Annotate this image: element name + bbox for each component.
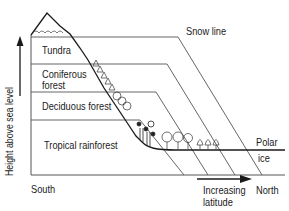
- zone-label-coniferous-line2: forest: [42, 80, 65, 91]
- y-axis-label: Height above sea level: [4, 87, 15, 176]
- latitude-label: latitude: [203, 197, 233, 208]
- snow-cap: [33, 31, 63, 33]
- polar-label-line2: ice: [258, 153, 270, 164]
- plain-deciduous-trees-icon: [162, 132, 193, 149]
- snow-line-label: Snow line: [186, 26, 226, 37]
- right-arrow-icon: [197, 175, 252, 183]
- zone-label-tropical: Tropical rainforest: [44, 140, 118, 151]
- south-label: South: [31, 184, 55, 195]
- north-label: North: [256, 185, 279, 196]
- deciduous-trees-icon: [113, 92, 131, 110]
- mountain-profile: [31, 13, 285, 150]
- up-arrow-icon: [17, 36, 24, 96]
- increasing-label: Increasing: [203, 185, 246, 196]
- polar-label-line1: Polar: [256, 137, 278, 148]
- rainforest-trees-icon: [137, 121, 155, 147]
- zone-label-deciduous: Deciduous forest: [42, 101, 111, 112]
- zone-label-tundra: Tundra: [42, 45, 71, 56]
